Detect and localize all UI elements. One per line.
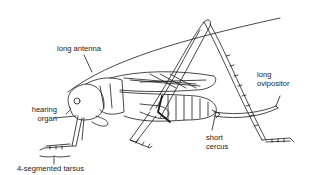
- label-organ-text: organ: [17, 114, 57, 123]
- middle-tarsus: [130, 140, 152, 148]
- tarsus-brace: [40, 156, 70, 157]
- label-long-antenna: long antenna: [57, 44, 101, 53]
- pronotum: [86, 78, 124, 114]
- head: [68, 84, 104, 120]
- label-ovipositor-text: ovipositor: [257, 79, 290, 88]
- label-cercus: short cercus: [206, 133, 228, 151]
- label-long-antenna-text: long antenna: [57, 44, 101, 53]
- antenna-leader: [84, 55, 92, 72]
- insect-diagram: long antenna hearing organ 4-segmented t…: [0, 0, 318, 175]
- label-ovipositor: long ovipositor: [257, 70, 290, 88]
- hearing-organ-leader: [54, 116, 76, 118]
- label-short-text: short: [206, 133, 228, 142]
- fore-femur: [92, 116, 108, 126]
- label-hearing-organ: hearing organ: [17, 105, 57, 123]
- eye: [74, 98, 80, 104]
- fore-tibia: [72, 116, 82, 146]
- label-cercus-text: cercus: [206, 142, 228, 151]
- label-hearing-text: hearing: [17, 105, 57, 114]
- label-long-text: long: [257, 70, 290, 79]
- label-tarsus-text: 4-segmented tarsus: [17, 164, 84, 173]
- label-tarsus: 4-segmented tarsus: [17, 164, 84, 173]
- ovipositor-leader: [276, 96, 280, 106]
- hind-tibia: [204, 22, 262, 140]
